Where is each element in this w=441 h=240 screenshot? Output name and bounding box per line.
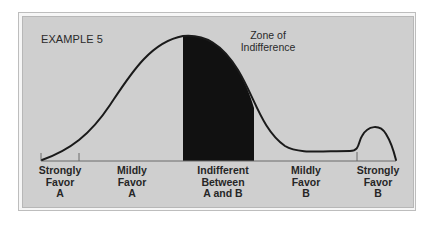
category-label-line: Strongly — [345, 165, 411, 177]
category-label-line: Strongly — [30, 165, 90, 177]
category-label-line: Indifferent — [183, 165, 263, 177]
category-mildly-favor-a: Mildly Favor A — [102, 165, 162, 200]
category-label-line: A — [30, 188, 90, 200]
category-mildly-favor-b: Mildly Favor B — [276, 165, 336, 200]
category-indifferent: Indifferent Between A and B — [183, 165, 263, 200]
zone-of-indifference-fill — [183, 36, 254, 161]
zone-of-indifference-label: Zone of Indifference — [232, 29, 304, 53]
category-label-line: A — [102, 188, 162, 200]
zone-label-line1: Zone of — [232, 29, 304, 41]
category-label-line: B — [345, 188, 411, 200]
category-label-line: Mildly — [102, 165, 162, 177]
category-strongly-favor-b: Strongly Favor B — [345, 165, 411, 200]
example-label: EXAMPLE 5 — [41, 33, 103, 45]
category-label-line: B — [276, 188, 336, 200]
category-strongly-favor-a: Strongly Favor A — [30, 165, 90, 200]
category-label-line: A and B — [183, 188, 263, 200]
zone-label-line2: Indifference — [232, 41, 304, 53]
category-label-line: Mildly — [276, 165, 336, 177]
